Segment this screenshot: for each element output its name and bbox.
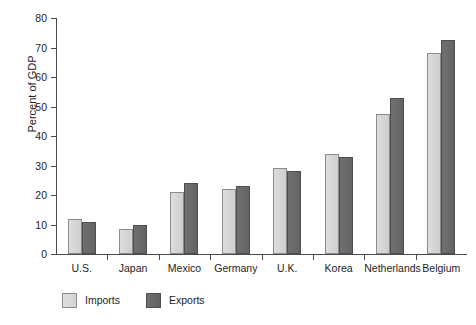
y-axis-line (56, 18, 57, 255)
legend-swatch-exports-icon (146, 293, 161, 308)
bar-exports-us (82, 222, 96, 254)
y-axis-tick-label: 20 (35, 189, 47, 201)
bar-imports-belgium (427, 53, 441, 254)
bar-exports-netherlands (390, 98, 404, 254)
x-axis-category-label: Japan (107, 262, 158, 274)
bar-exports-germany (236, 186, 250, 254)
legend-label-exports: Exports (169, 294, 205, 306)
x-axis-tick (416, 255, 417, 260)
x-axis-tick (364, 255, 365, 260)
bar-group (273, 18, 301, 254)
x-axis-tick (159, 255, 160, 260)
bar-group (119, 18, 147, 254)
bar-exports-uk (287, 171, 301, 254)
bar-group (68, 18, 96, 254)
y-axis-title: Percent of GDP (22, 14, 42, 174)
y-axis-tick-label: 70 (35, 42, 47, 54)
y-axis-tick-label: 10 (35, 219, 47, 231)
x-axis-category-label: Germany (210, 262, 261, 274)
y-axis-tick (51, 107, 56, 108)
legend-swatch-imports-icon (62, 293, 77, 308)
bar-imports-netherlands (376, 114, 390, 254)
bar-chart: Percent of GDP 01020304050607080U.S.Japa… (0, 0, 476, 325)
bar-exports-belgium (441, 40, 455, 254)
chart-legend: Imports Exports (62, 292, 231, 308)
y-axis-tick-label: 30 (35, 160, 47, 172)
x-axis-category-label: Korea (313, 262, 364, 274)
y-axis-tick (51, 136, 56, 137)
x-axis-category-label: Netherlands (364, 262, 415, 274)
y-axis-tick (51, 166, 56, 167)
bar-exports-japan (133, 225, 147, 255)
bar-imports-korea (325, 154, 339, 254)
bar-imports-germany (222, 189, 236, 254)
plot-area: 01020304050607080U.S.JapanMexicoGermanyU… (56, 18, 467, 254)
bar-imports-japan (119, 229, 133, 254)
y-axis-tick-label: 80 (35, 12, 47, 24)
legend-item-imports: Imports (62, 293, 120, 308)
y-axis-tick (51, 254, 56, 255)
y-axis-tick (51, 77, 56, 78)
bar-imports-us (68, 219, 82, 254)
y-axis-tick-label: 50 (35, 101, 47, 113)
bar-imports-uk (273, 168, 287, 254)
x-axis-category-label: Mexico (159, 262, 210, 274)
x-axis-tick (262, 255, 263, 260)
bar-group (222, 18, 250, 254)
bar-group (376, 18, 404, 254)
y-axis-tick (51, 225, 56, 226)
bar-imports-mexico (170, 192, 184, 254)
y-axis-tick (51, 48, 56, 49)
x-axis-tick (210, 255, 211, 260)
x-axis-tick (107, 255, 108, 260)
y-axis-tick (51, 195, 56, 196)
x-axis-category-label: Belgium (416, 262, 467, 274)
bar-exports-mexico (184, 183, 198, 254)
y-axis-tick-label: 60 (35, 71, 47, 83)
legend-item-exports: Exports (146, 293, 205, 308)
y-axis-tick-label: 0 (41, 248, 47, 260)
bar-group (427, 18, 455, 254)
y-axis-tick-label: 40 (35, 130, 47, 142)
bar-group (325, 18, 353, 254)
bar-group (170, 18, 198, 254)
bar-exports-korea (339, 157, 353, 254)
y-axis-tick (51, 18, 56, 19)
x-axis-category-label: U.S. (56, 262, 107, 274)
x-axis-category-label: U.K. (262, 262, 313, 274)
x-axis-tick (313, 255, 314, 260)
legend-label-imports: Imports (85, 294, 120, 306)
